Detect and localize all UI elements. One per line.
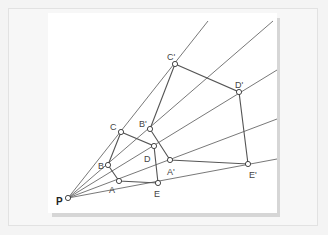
point-b-label: B (98, 161, 104, 171)
point-c-prime (172, 61, 177, 66)
point-a-label: A (109, 185, 115, 195)
point-e-label: E (154, 189, 160, 199)
point-d-label: D (144, 154, 151, 164)
point-e (155, 180, 160, 185)
polygons-group (108, 64, 248, 183)
point-e-prime (245, 161, 250, 166)
point-b-prime (147, 126, 152, 131)
point-p (65, 195, 70, 200)
point-b-prime-label: B' (139, 119, 147, 129)
point-c-label: C (110, 122, 117, 132)
point-c (118, 129, 123, 134)
point-p-label: P (56, 196, 63, 207)
point-d-prime (236, 89, 241, 94)
point-c-prime-label: C' (167, 52, 175, 62)
point-e-prime-label: E' (249, 170, 257, 180)
point-a (116, 178, 121, 183)
point-b (105, 162, 110, 167)
point-a-prime (167, 157, 172, 162)
point-a-prime-label: A' (167, 167, 175, 177)
dilation-diagram: PABCDEA'B'C'D'E' (0, 0, 328, 235)
point-d-prime-label: D' (235, 80, 243, 90)
point-d (151, 143, 156, 148)
